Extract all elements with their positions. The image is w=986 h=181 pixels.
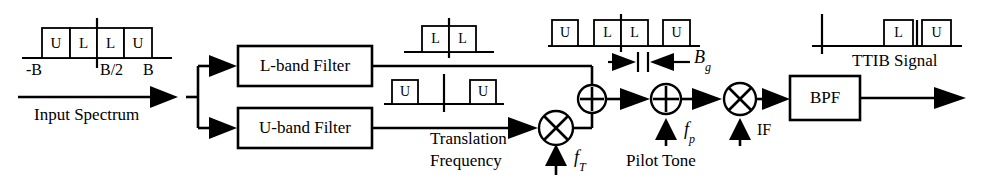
input-spectrum-box-0: U [42, 28, 70, 58]
combined-spectrum-box-2: L [621, 20, 648, 46]
combiner-to-pilot-path [606, 88, 650, 110]
combined-spectrum-box-1: L [594, 20, 621, 46]
l-band-spectrum-box-0: L [422, 26, 449, 52]
combined-spectrum-box-0: U [552, 20, 578, 46]
l-band-filter-label: L-band Filter [238, 46, 372, 86]
translation-frequency-caption-line2: Frequency [430, 152, 502, 169]
gap-bandwidth-label: Bg [694, 48, 711, 69]
input-spectrum-box-2: L [97, 28, 124, 58]
u-band-spectrum-box-0: U [392, 80, 418, 104]
ttib-signal-caption: TTIB Signal [852, 52, 937, 69]
input-spectrum-box-1: L [70, 28, 97, 58]
axis-label-b: B [143, 62, 154, 78]
u-band-filter-label: U-band Filter [238, 108, 372, 148]
combined-spectrum-box-3: U [663, 20, 690, 46]
input-spectrum-caption: Input Spectrum [34, 106, 139, 123]
ttib-spectrum-box-1: U [922, 20, 951, 46]
gap-bandwidth-symbol: B [694, 47, 705, 67]
ttib-block-diagram: .ln { stroke:#000; stroke-width:2.6; fil… [0, 0, 986, 181]
gap-bandwidth-annotation [608, 52, 690, 72]
axis-label-neg-b: -B [26, 62, 42, 78]
u-band-spectrum-box-1: U [470, 80, 496, 104]
ft-subscript: T [579, 160, 586, 174]
pilot-to-if-path [681, 88, 722, 110]
l-band-spectrum-box-1: L [449, 26, 476, 52]
bpf-label: BPF [790, 76, 860, 120]
if-input-label: IF [757, 122, 771, 138]
if-to-bpf-path [756, 88, 790, 110]
pilot-tone-symbol-label: fp [684, 120, 695, 141]
input-spectrum-box-3: U [124, 28, 152, 58]
pilot-tone-caption: Pilot Tone [626, 152, 696, 169]
fp-subscript: p [689, 132, 695, 146]
ttib-spectrum-box-0: L [884, 20, 913, 46]
translation-frequency-caption-line1: Translation [430, 130, 507, 147]
output-signal-line [860, 87, 966, 109]
axis-label-b-half: B/2 [100, 62, 123, 78]
pilot-adder[interactable] [651, 84, 681, 146]
translation-mixer[interactable] [539, 111, 573, 175]
translation-frequency-symbol-label: fT [574, 148, 586, 169]
splitter-node [186, 55, 237, 139]
gap-bandwidth-subscript: g [705, 60, 711, 74]
if-mixer[interactable] [724, 83, 756, 146]
combiner-adder[interactable] [578, 85, 606, 113]
